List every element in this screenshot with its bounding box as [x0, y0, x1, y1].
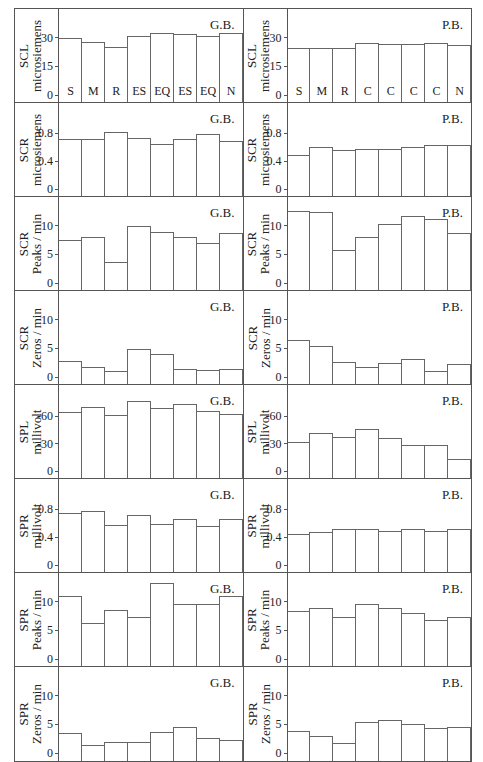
y-axis-ticks: 00.40.8: [256, 479, 288, 572]
bar-C: [378, 363, 402, 384]
bar-chart-panel: SPLmillivolt0-30-60G.B.: [15, 385, 244, 478]
bar-EQ: [196, 526, 220, 572]
y-tick-label: -30: [37, 438, 59, 450]
x-category-label: EQ: [151, 84, 174, 99]
bar-M: [309, 532, 333, 572]
y-tick-label: 30: [270, 32, 288, 44]
x-category-label: R: [333, 84, 356, 99]
bar-C: [378, 438, 402, 478]
group-label: P.B.: [442, 205, 463, 221]
chart-row: SCRPeaks / min0510G.B.SCRPeaks / min0510…: [15, 197, 471, 291]
bar-M: [309, 608, 333, 666]
bar-chart-panel: SPRPeaks / min0510G.B.: [15, 573, 244, 666]
group-label: G.B.: [210, 393, 235, 409]
x-category-label: S: [59, 84, 82, 99]
bar-C: [378, 224, 402, 290]
chart-row: SPRmillivolt00.40.8G.B.SPRmillivolt00.40…: [15, 479, 471, 573]
y-tick-label: 0: [276, 653, 288, 665]
bar-R: [332, 250, 356, 290]
bar-N: [447, 233, 471, 290]
group-label: G.B.: [210, 581, 235, 597]
x-category-label: S: [288, 84, 311, 99]
bar-R: [332, 529, 356, 572]
bar-M: [81, 623, 105, 666]
bar-C: [355, 429, 379, 478]
bar-ES: [173, 519, 197, 572]
bar-EQ: [196, 411, 220, 478]
plot-area: 0510P.B.: [287, 291, 472, 384]
bar-chart-panel: SPRZeros / min0510G.B.: [15, 667, 244, 761]
group-label: P.B.: [442, 299, 463, 315]
bar-C: [424, 728, 448, 761]
bar-N: [219, 740, 243, 761]
chart-row: SPLmillivolt0-30-60G.B.SPLmillivolt0-30-…: [15, 385, 471, 479]
bar-EQ: [150, 232, 174, 290]
x-category-label: C: [356, 84, 379, 99]
y-axis-ticks: 00.40.8: [256, 103, 288, 196]
y-axis-ticks: 0510: [256, 667, 288, 761]
group-label: G.B.: [210, 17, 235, 33]
bar-N: [447, 617, 471, 666]
plot-area: 01530G.B.SMRESEQESEQN: [58, 9, 243, 102]
bar-chart-panel: SCLmicrosiemens01530P.B.SMRCCCCN: [244, 9, 472, 102]
y-tick-label: 10: [41, 596, 59, 608]
bar-M: [81, 139, 105, 196]
bar-M: [309, 147, 333, 196]
bar-ES: [173, 237, 197, 290]
y-tick-label: 15: [41, 60, 59, 72]
bar-EQ: [150, 524, 174, 572]
plot-area: 0510G.B.: [58, 667, 243, 761]
bar-M: [81, 745, 105, 761]
x-category-label: M: [82, 84, 105, 99]
bar-EQ: [150, 583, 174, 666]
bar-M: [309, 433, 333, 478]
bar-chart-panel: SCRPeaks / min0510G.B.: [15, 197, 244, 290]
group-label: P.B.: [442, 581, 463, 597]
bar-S: [288, 534, 311, 572]
chart-row: SCRZeros / min0510G.B.SCRZeros / min0510…: [15, 291, 471, 385]
y-tick-label: 0.8: [38, 127, 59, 139]
bar-C: [424, 531, 448, 572]
bar-EQ: [150, 408, 174, 478]
bar-ES: [173, 139, 197, 196]
y-tick-label: 5: [47, 248, 59, 260]
bar-R: [332, 362, 356, 384]
y-axis-ticks: 0510: [27, 197, 59, 290]
group-label: P.B.: [442, 675, 463, 691]
bar-ES: [173, 604, 197, 666]
y-tick-label: 5: [47, 624, 59, 636]
group-label: G.B.: [210, 111, 235, 127]
y-tick-label: 0: [276, 747, 288, 759]
bar-R: [104, 371, 128, 384]
y-tick-label: 10: [41, 220, 59, 232]
chart-row: SCRmicrosiemens00.40.8G.B.SCRmicrosiemen…: [15, 103, 471, 197]
x-category-label: M: [310, 84, 333, 99]
plot-area: 00.40.8G.B.: [58, 103, 243, 196]
y-tick-label: 0: [47, 371, 59, 383]
bar-M: [309, 212, 333, 290]
bar-C: [355, 604, 379, 666]
bar-C: [424, 145, 448, 196]
chart-row: SPRPeaks / min0510G.B.SPRPeaks / min0510…: [15, 573, 471, 667]
x-category-label: C: [379, 84, 402, 99]
bar-ES: [173, 404, 197, 478]
x-category-label: C: [402, 84, 425, 99]
y-axis-ticks: 01530: [27, 9, 59, 102]
bar-R: [332, 437, 356, 478]
bar-C: [424, 219, 448, 290]
bar-C: [424, 620, 448, 666]
bar-ES: [173, 369, 197, 384]
y-tick-label: 0: [276, 89, 288, 101]
y-tick-label: 0: [276, 371, 288, 383]
bar-S: [59, 412, 82, 478]
y-tick-label: 5: [47, 342, 59, 354]
bar-EQ: [150, 144, 174, 196]
bar-chart-panel: SCLmicrosiemens01530G.B.SMRESEQESEQN: [15, 9, 244, 102]
group-label: P.B.: [442, 17, 463, 33]
y-tick-label: 5: [276, 624, 288, 636]
y-tick-label: 0.4: [267, 531, 288, 543]
x-category-label: EQ: [197, 84, 220, 99]
bar-N: [447, 727, 471, 761]
group-label: P.B.: [442, 487, 463, 503]
plot-area: 0-30-60P.B.: [287, 385, 472, 478]
